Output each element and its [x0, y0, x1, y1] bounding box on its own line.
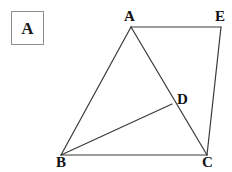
segments-group	[61, 27, 221, 155]
vertex-label-b: B	[56, 155, 66, 170]
vertex-label-e: E	[215, 9, 225, 24]
geometry-figure: A A E D B C	[0, 0, 232, 172]
segment-b-d	[61, 104, 172, 155]
panel-label-letter: A	[21, 20, 33, 37]
vertex-label-c: C	[202, 155, 213, 170]
vertex-label-a: A	[124, 9, 135, 24]
segment-e-c	[207, 27, 221, 155]
panel-label-box: A	[11, 11, 44, 45]
segment-a-b	[61, 27, 131, 155]
vertex-label-d: D	[177, 92, 188, 107]
segment-a-c	[131, 27, 207, 155]
